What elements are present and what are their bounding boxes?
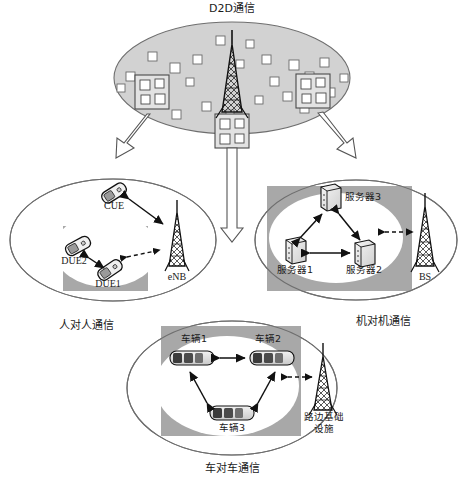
arrow-to-v2v [221, 148, 243, 242]
v2v-group [127, 321, 337, 455]
car1-icon [170, 351, 214, 365]
node-label-car3: 车辆3 [219, 423, 245, 433]
node-label-car2: 车辆2 [255, 334, 281, 344]
car2-icon [250, 351, 294, 365]
node-label-due1: DUE1 [95, 279, 121, 290]
server1-icon [286, 237, 306, 264]
arrow-to-h2h [116, 114, 150, 158]
building-cluster-left [135, 75, 169, 109]
building-cluster-right [296, 74, 330, 108]
node-label-rsu-line1: 路边基础 [304, 412, 344, 422]
caption-m2m: 机对机通信 [356, 316, 411, 328]
car3-icon [210, 406, 254, 420]
server2-icon [355, 240, 375, 267]
diagram-canvas: D2D通信 CUE DUE2 DUE1 eNB 人对人通信 服务器3 服务器1 … [0, 0, 470, 489]
node-label-server3: 服务器3 [345, 192, 381, 202]
node-label-server1: 服务器1 [277, 265, 313, 275]
node-label-rsu-line2: 设施 [314, 424, 334, 434]
building-cluster-bottom [215, 114, 249, 148]
arrow-to-m2m [318, 112, 356, 158]
node-label-enb: eNB [168, 272, 186, 283]
caption-v2v: 车对车通信 [205, 463, 260, 475]
server3-icon [321, 184, 341, 211]
node-label-car1: 车辆1 [181, 334, 207, 344]
diagram-title: D2D通信 [209, 3, 255, 15]
node-label-cue: CUE [104, 201, 124, 212]
node-label-bs: BS [419, 272, 431, 283]
node-label-server2: 服务器2 [346, 265, 382, 275]
node-label-due2: DUE2 [61, 256, 87, 267]
caption-h2h: 人对人通信 [59, 320, 114, 332]
macro-cell-group [114, 22, 350, 148]
diagram-vector-layer [0, 0, 470, 489]
